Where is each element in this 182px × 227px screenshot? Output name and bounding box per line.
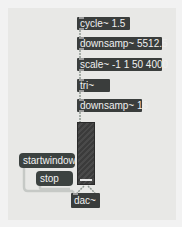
message-label: startwindow xyxy=(23,155,76,166)
cycle-object[interactable]: cycle~ 1.5 xyxy=(77,17,130,30)
inlet[interactable] xyxy=(79,79,84,81)
outlet[interactable] xyxy=(79,69,84,71)
inlet[interactable] xyxy=(79,37,84,39)
stop-message[interactable]: stop xyxy=(36,171,73,186)
startwindow-message[interactable]: startwindow xyxy=(19,153,75,168)
scale-object[interactable]: scale~ -1 1 50 4000 xyxy=(77,58,162,71)
outlet[interactable] xyxy=(79,28,84,30)
dac-object[interactable]: dac~ xyxy=(71,193,100,208)
outlet[interactable] xyxy=(79,48,84,50)
tri-object[interactable]: tri~ xyxy=(77,79,110,92)
object-label: cycle~ 1.5 xyxy=(80,18,125,29)
inlet[interactable] xyxy=(73,193,78,195)
object-label: dac~ xyxy=(74,195,96,206)
level-meter[interactable] xyxy=(77,122,95,185)
inlet[interactable] xyxy=(79,17,84,19)
object-label: downsamp~ 5512.5 xyxy=(80,38,168,49)
object-label: downsamp~ 16 xyxy=(80,100,148,111)
message-label: stop xyxy=(40,173,59,184)
inlet[interactable] xyxy=(79,58,84,60)
downsamp-16-object[interactable]: downsamp~ 16 xyxy=(77,99,142,112)
downsamp-5512-object[interactable]: downsamp~ 5512.5 xyxy=(77,37,162,50)
inlet[interactable] xyxy=(79,99,84,101)
outlet[interactable] xyxy=(79,90,84,92)
meter-level-indicator xyxy=(80,179,92,181)
object-label: scale~ -1 1 50 4000 xyxy=(80,59,168,70)
outlet[interactable] xyxy=(79,110,84,112)
